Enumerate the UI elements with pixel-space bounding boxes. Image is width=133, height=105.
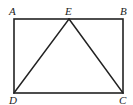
label-a: A bbox=[8, 5, 16, 17]
label-e: E bbox=[64, 5, 72, 17]
rectangle-abcd bbox=[14, 19, 123, 93]
label-c: C bbox=[119, 94, 127, 105]
label-d: D bbox=[8, 94, 17, 105]
geometry-figure: A E B D C bbox=[0, 0, 133, 105]
segment-de bbox=[14, 19, 69, 93]
segment-ec bbox=[69, 19, 123, 93]
label-b: B bbox=[120, 5, 127, 17]
